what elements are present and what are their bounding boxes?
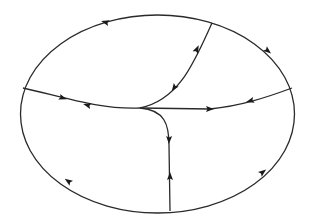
direction-arrows bbox=[58, 18, 273, 186]
lower-branch-curve bbox=[140, 108, 170, 211]
left-branch-curve bbox=[23, 88, 140, 108]
flow-curves bbox=[23, 23, 292, 211]
boundary-arrow-bottom-right-icon bbox=[258, 167, 268, 177]
boundary-arrow-top-right-icon bbox=[263, 46, 273, 56]
upper-right-branch-curve bbox=[140, 23, 212, 108]
phase-portrait-diagram bbox=[0, 0, 313, 215]
boundary-arrow-bottom-left-icon bbox=[63, 176, 73, 186]
upper-branch-arrow-2-icon bbox=[169, 83, 179, 93]
